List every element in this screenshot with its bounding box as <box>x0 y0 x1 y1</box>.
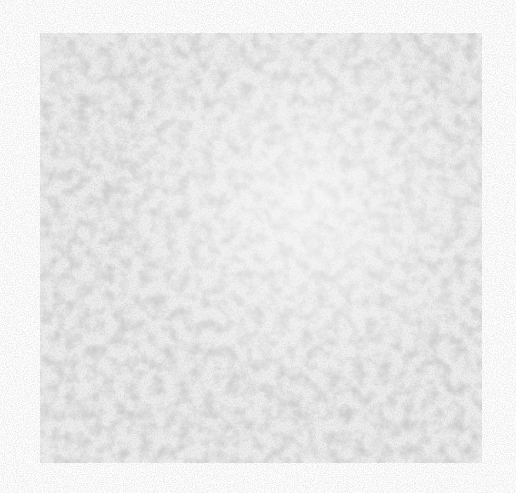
noise-texture <box>40 33 482 463</box>
noise-texture-square <box>40 33 482 463</box>
